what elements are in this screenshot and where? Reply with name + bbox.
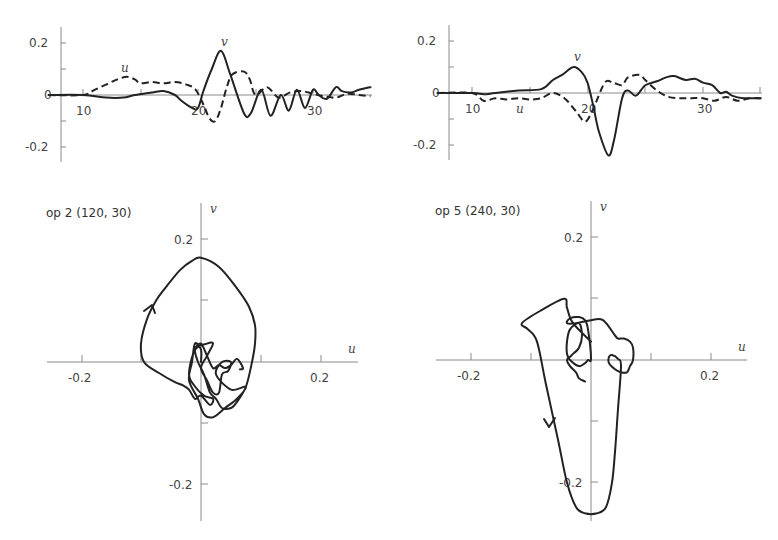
series-v-line [437, 67, 760, 156]
y-tick-label: -0.2 [25, 140, 48, 154]
x-tick-label: 10 [465, 102, 480, 116]
series-label-v: v [574, 50, 581, 64]
v-tick-label: -0.2 [169, 478, 192, 492]
v-tick-label: 0.2 [564, 231, 583, 245]
series-label-u: u [121, 61, 129, 75]
trajectory-line [141, 258, 256, 418]
panel-title: op 2 (120, 30) [46, 206, 131, 220]
u-axis-label: u [738, 340, 746, 354]
figure-canvas: 0.2 0 -0.2 10 20 30 u v 0.2 0 -0.2 1 [0, 0, 778, 540]
hodograph-left-panel: op 2 (120, 30) -0.2 0.2 0.2 -0.2 u v [46, 202, 358, 521]
x-tick-label: 30 [697, 102, 712, 116]
hodograph-right-panel: op 5 (240, 30) -0.2 0.2 0.2 -0.2 u v [435, 200, 747, 521]
v-tick-label: -0.2 [559, 476, 582, 490]
series-u-line [437, 75, 760, 122]
y-tick-label: 0.2 [417, 34, 436, 48]
series-label-u: u [516, 102, 524, 116]
panel-title: op 5 (240, 30) [435, 204, 520, 218]
y-tick-label: 0.2 [29, 36, 48, 50]
u-tick-label: 0.2 [310, 371, 329, 385]
v-tick-label: 0.2 [174, 233, 193, 247]
x-tick-label: 30 [307, 104, 322, 118]
u-tick-label: 0.2 [700, 369, 719, 383]
v-axis-label: v [600, 200, 607, 214]
u-tick-label: -0.2 [457, 369, 480, 383]
u-axis-label: u [348, 342, 356, 356]
timeseries-right-panel: 0.2 0 -0.2 10 20 30 u v [413, 25, 762, 160]
timeseries-left-panel: 0.2 0 -0.2 10 20 30 u v [25, 27, 372, 162]
u-tick-label: -0.2 [68, 371, 91, 385]
v-axis-label: v [210, 202, 217, 216]
series-label-v: v [221, 35, 228, 49]
x-tick-label: 10 [76, 104, 91, 118]
y-tick-label: -0.2 [413, 138, 436, 152]
